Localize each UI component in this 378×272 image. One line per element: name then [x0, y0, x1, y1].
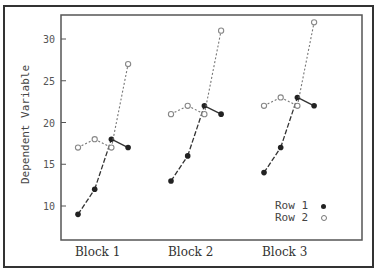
data-point-row-1 — [125, 145, 131, 151]
y-tick-label: 20 — [43, 118, 55, 129]
y-tick-label: 15 — [43, 159, 55, 170]
data-point-row-1 — [185, 153, 191, 159]
series-line — [264, 148, 281, 173]
x-category-block-3: Block 3 — [262, 245, 307, 259]
series-line — [111, 64, 128, 148]
data-point-row-2 — [295, 103, 300, 108]
data-point-row-1 — [168, 178, 174, 184]
filled-circle-icon — [321, 204, 326, 209]
data-point-row-1 — [218, 111, 224, 117]
data-point-row-2 — [185, 103, 190, 108]
data-point-row-2 — [92, 137, 97, 142]
series-line — [78, 189, 95, 214]
open-circle-icon — [321, 215, 327, 221]
series-line — [297, 22, 314, 106]
data-point-row-2 — [219, 28, 224, 33]
legend: Row 1 Row 2 — [275, 200, 327, 224]
y-tick-label: 30 — [43, 34, 55, 45]
plot-area: 1015202530 — [0, 0, 378, 272]
series-line — [204, 31, 221, 115]
data-point-row-1 — [278, 145, 284, 151]
data-point-row-2 — [126, 61, 131, 66]
legend-item-row-2: Row 2 — [275, 212, 327, 224]
data-point-row-2 — [168, 112, 173, 117]
y-axis-label: Dependent Variable — [19, 60, 32, 190]
data-point-row-2 — [278, 95, 283, 100]
data-point-row-2 — [75, 145, 80, 150]
x-category-block-1: Block 1 — [75, 245, 120, 259]
data-point-row-1 — [311, 103, 317, 109]
series-line — [171, 156, 188, 181]
data-point-row-1 — [261, 170, 267, 176]
data-point-row-1 — [75, 212, 81, 218]
y-tick-label: 25 — [43, 76, 55, 87]
data-point-row-2 — [109, 145, 114, 150]
data-point-row-2 — [202, 112, 207, 117]
data-point-row-1 — [92, 187, 98, 193]
data-point-row-2 — [261, 103, 266, 108]
x-category-block-2: Block 2 — [168, 245, 213, 259]
y-tick-label: 10 — [43, 201, 55, 212]
data-point-row-2 — [312, 20, 317, 25]
